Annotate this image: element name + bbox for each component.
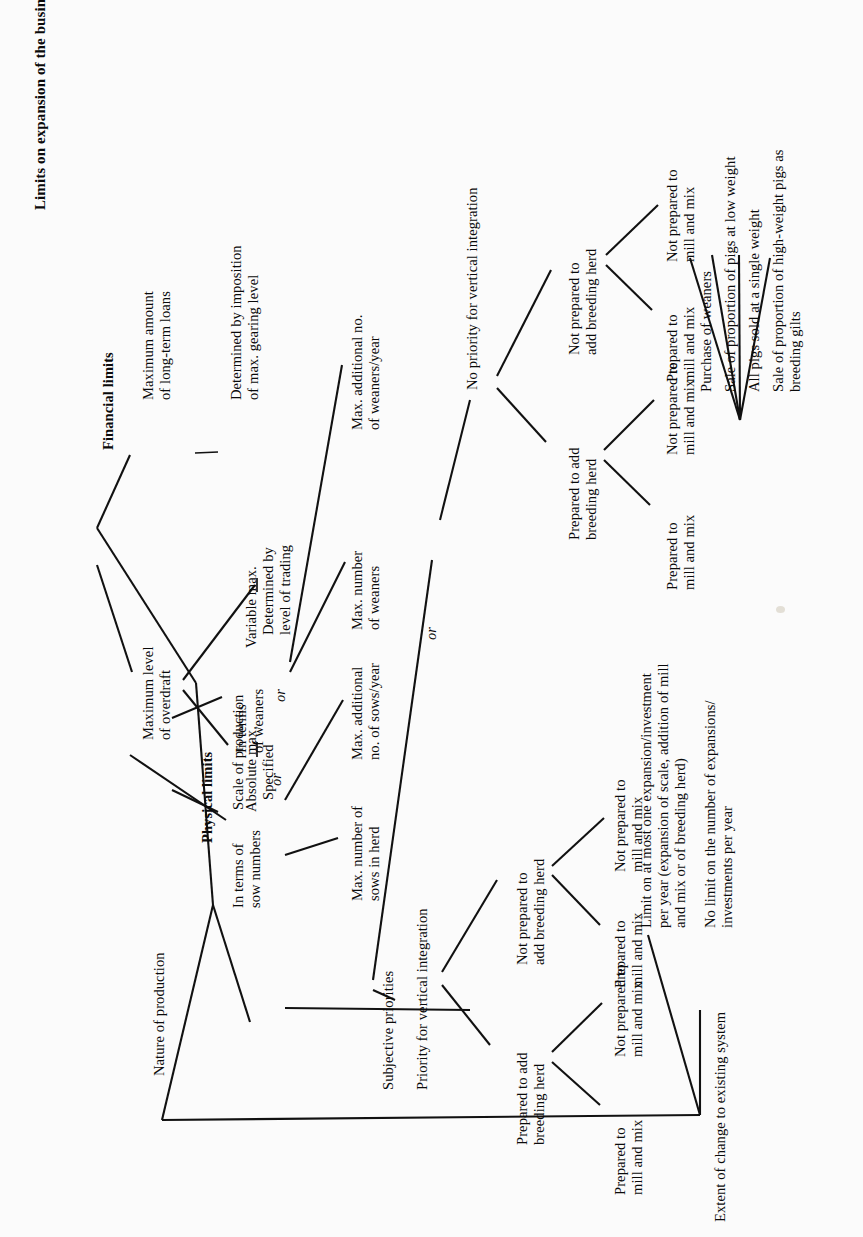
node-max-number-of-weaners: Max. number of weaners — [349, 551, 383, 630]
diagram-canvas: Limits on expansion of the business Phys… — [0, 0, 863, 1237]
node-p-prepared-mill-and-mix-1: Prepared to mill and mix — [612, 1120, 646, 1195]
node-sale-low-weight: Sale of proportion of pigs at low weight — [722, 156, 739, 392]
edge-financial-to-loans — [97, 455, 130, 528]
scan-speck — [776, 606, 785, 613]
node-np-prepared-mill-and-mix-1: Prepared to mill and mix — [664, 515, 698, 590]
node-financial-limits: Financial limits — [100, 352, 117, 450]
edge-notprep-to-notmill — [552, 818, 604, 866]
node-max-additional-sows: Max. additional no. of sows/year — [349, 663, 383, 760]
edge-prep-to-notmill — [552, 1003, 602, 1052]
node-in-terms-of-weaners: In terms of weaners — [233, 689, 267, 753]
edge-sow-to-maxherd — [285, 838, 338, 855]
edge-scale-to-weaners — [172, 697, 222, 718]
node-determined-by-gearing: Determined by imposition of max. gearing… — [228, 245, 262, 400]
node-max-sows-in-herd: Max. number of sows in herd — [349, 806, 383, 901]
edge-np-notprep-to-notmill — [606, 205, 658, 255]
edge-loans-tick — [195, 452, 218, 453]
edge-nopriority-to-prep — [497, 388, 546, 442]
node-or-subjective: or — [423, 627, 440, 640]
edge-subjective-to-nopriority — [440, 400, 470, 520]
edge-np-prep-to-mill — [604, 460, 650, 505]
edge-sow-to-addsows — [285, 700, 343, 800]
edge-overdraft-to-absolute — [183, 690, 228, 745]
node-determined-by-trading: Determined by level of trading — [260, 545, 294, 635]
edge-prep-to-mill — [552, 1062, 600, 1105]
node-no-limit-expansions-per-year: No limit on the number of expansions/ in… — [702, 700, 736, 928]
node-purchase-of-weaners: Purchase of weaners — [698, 271, 715, 392]
node-all-pigs-single-weight: All pigs sold at a single weight — [746, 209, 763, 392]
node-np-prepared-add-breeding-herd: Prepared to add breeding herd — [566, 448, 600, 541]
node-np-not-prepared-add-breeding-herd: Not prepared to add breeding herd — [566, 249, 600, 355]
node-np-prepared-mill-and-mix-2: Prepared to mill and mix — [664, 307, 698, 382]
node-extent-of-change: Extent of change to existing system — [712, 1012, 729, 1222]
node-variable-max: Variable max. — [243, 566, 260, 648]
edge-nopriority-to-notprep — [497, 270, 551, 376]
node-physical-limits: Physical limits — [199, 752, 216, 843]
node-subjective-priorities: Subjective priorities — [380, 971, 397, 1090]
edge-priority-to-prep — [442, 985, 490, 1045]
node-or-scale: or — [268, 773, 285, 786]
node-sale-high-weight-gilts: Sale of proportion of high-weight pigs a… — [770, 149, 804, 392]
node-in-terms-of-sow-numbers: In terms of sow numbers — [230, 830, 264, 908]
node-limit-one-expansion-per-year: Limit on at most one expansion/investmen… — [638, 663, 689, 928]
node-or-overdraft: or — [272, 689, 289, 702]
edge-nature-horizontal — [285, 1008, 470, 1010]
edge-np-notprep-to-mill — [606, 265, 652, 310]
node-priority-for-vertical-integration: Priority for vertical integration — [414, 908, 431, 1090]
node-no-priority-for-vertical-integration: No priority for vertical integration — [464, 187, 481, 390]
edge-priority-to-notprep — [442, 880, 497, 972]
node-np-not-prepared-mill-and-mix-2: Not prepared to mill and mix — [664, 170, 698, 263]
node-max-level-of-overdraft: Maximum level of overdraft — [140, 646, 174, 740]
node-p-not-prepared-add-breeding-herd: Not prepared to add breeding herd — [514, 859, 548, 965]
edge-root-riser — [162, 905, 213, 1120]
edge-weaners-to-max — [290, 562, 345, 672]
edge-extent-to-limit — [648, 935, 700, 1115]
edge-np-prep-to-notmill — [604, 400, 654, 450]
edge-weaners-to-add — [290, 365, 342, 662]
edge-physical-to-nature — [213, 905, 250, 1022]
node-p-prepared-add-breeding-herd: Prepared to add breeding herd — [514, 1053, 548, 1146]
edge-financial-to-overdraft — [97, 565, 132, 672]
edge-notprep-to-mill — [552, 875, 600, 925]
edge-nature-fan-3 — [739, 255, 740, 420]
node-nature-of-production: Nature of production — [151, 952, 168, 1076]
node-max-additional-weaners: Max. additional no. of weaners/year — [349, 315, 383, 430]
node-max-long-term-loans: Maximum amount of long-term loans — [140, 291, 174, 400]
diagram-title: Limits on expansion of the business — [32, 0, 50, 210]
